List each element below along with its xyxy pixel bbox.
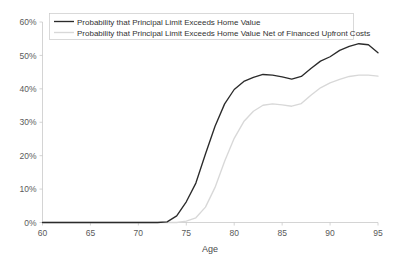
x-tick-label: 75 — [182, 228, 192, 238]
line-chart: 0%10%20%30%40%50%60% 6065707580859095 Ag… — [0, 0, 395, 269]
y-tick-label: 50% — [19, 51, 36, 61]
x-tick-label: 60 — [38, 228, 48, 238]
x-tick-label: 85 — [277, 228, 287, 238]
legend-label-secondary: Probability that Principal Limit Exceeds… — [77, 29, 370, 38]
x-tick-label: 65 — [86, 228, 96, 238]
y-tick-label: 20% — [19, 151, 36, 161]
legend-label-primary: Probability that Principal Limit Exceeds… — [77, 18, 261, 27]
x-axis-title: Age — [202, 244, 218, 254]
x-tick-label: 95 — [373, 228, 383, 238]
x-tick-label: 80 — [229, 228, 239, 238]
y-tick-label: 0% — [24, 218, 37, 228]
y-tick-label: 60% — [19, 17, 36, 27]
x-tick-label: 70 — [134, 228, 144, 238]
x-tick-label: 90 — [325, 228, 335, 238]
chart-figure: 0%10%20%30%40%50%60% 6065707580859095 Ag… — [0, 0, 395, 269]
y-tick-label: 30% — [19, 117, 36, 127]
y-tick-label: 40% — [19, 84, 36, 94]
chart-background — [0, 0, 395, 269]
y-tick-label: 10% — [19, 184, 36, 194]
chart-legend: Probability that Principal Limit Exceeds… — [50, 14, 371, 40]
